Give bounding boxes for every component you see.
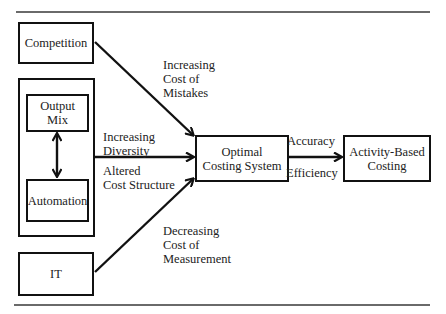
- node-activity-based-costing: Activity-Based Costing: [343, 135, 431, 182]
- label-increasing-diversity: Increasing Diversity: [103, 130, 155, 158]
- node-abc-label: Activity-Based Costing: [349, 145, 425, 173]
- node-competition: Competition: [18, 22, 94, 64]
- node-automation-label: Automation: [28, 194, 88, 208]
- node-it: IT: [18, 252, 94, 296]
- label-accuracy: Accuracy: [287, 134, 335, 148]
- node-output-mix-label: Output Mix: [40, 99, 75, 127]
- node-optimal-costing-system: Optimal Costing System: [195, 135, 289, 182]
- node-automation: Automation: [26, 179, 89, 222]
- label-decreasing-cost-of-measurement: Decreasing Cost of Measurement: [163, 224, 231, 266]
- label-altered-cost-structure: Altered Cost Structure: [103, 164, 175, 192]
- node-competition-label: Competition: [25, 36, 88, 50]
- label-increasing-cost-of-mistakes: Increasing Cost of Mistakes: [163, 58, 215, 100]
- node-optimal-label: Optimal Costing System: [203, 145, 282, 173]
- node-it-label: IT: [50, 267, 62, 281]
- label-efficiency: Efficiency: [286, 166, 338, 180]
- node-output-mix: Output Mix: [26, 94, 89, 132]
